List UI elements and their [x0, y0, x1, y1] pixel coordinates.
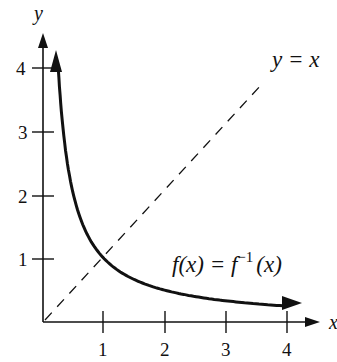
x-axis-arrow-icon [305, 317, 320, 327]
curve-label: f(x) = f−1(x) [172, 249, 282, 277]
identity-line [45, 84, 262, 320]
x-tick-label: 1 [98, 339, 108, 360]
curve-arrow-right-icon [282, 296, 302, 310]
x-axis-label: x [328, 311, 337, 333]
x-tick-label: 2 [160, 339, 170, 360]
y-axis-label: y [32, 2, 43, 25]
curve-arrow-up-icon [50, 50, 62, 72]
y-axis: 1 2 3 4 y [16, 2, 54, 322]
identity-line-label: y = x [270, 47, 320, 72]
chart: 1 2 3 4 y 1 2 3 4 x y = x f(x) = f−1(x) [0, 0, 337, 362]
y-tick-label: 2 [18, 186, 28, 207]
x-axis: 1 2 3 4 x [43, 311, 337, 360]
y-tick-label: 4 [16, 58, 26, 79]
y-axis-arrow-icon [38, 33, 48, 48]
y-tick-label: 3 [18, 122, 28, 143]
x-tick-label: 4 [282, 339, 292, 360]
y-tick-label: 1 [18, 249, 28, 270]
x-tick-label: 3 [221, 339, 231, 360]
